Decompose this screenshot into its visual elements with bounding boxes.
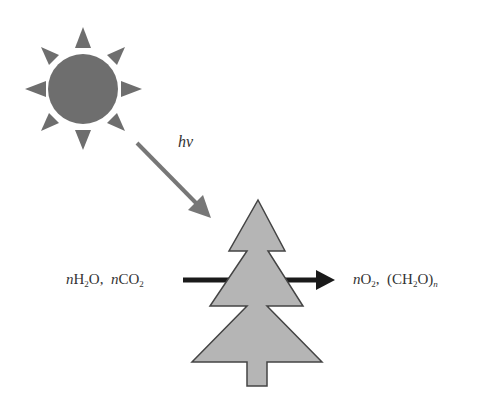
coefficient: n	[353, 271, 361, 287]
formula-part: O)	[417, 271, 433, 287]
formula-part: O	[361, 271, 372, 287]
formula-part: CO	[118, 271, 139, 287]
subscript: 2	[139, 279, 144, 289]
reactants-label: nH2O, nCO2	[66, 272, 144, 287]
diagram-canvas	[0, 0, 484, 413]
subscript: n	[433, 279, 438, 289]
formula-part: H	[74, 271, 85, 287]
formula-part: O,	[89, 271, 104, 287]
products-label: nO2, (CH2O)n	[353, 272, 438, 287]
tree-icon	[192, 200, 322, 386]
light-energy-label: hv	[178, 134, 193, 150]
coefficient: n	[66, 271, 74, 287]
sun-icon	[25, 27, 142, 150]
light-arrow	[137, 143, 211, 218]
formula-part: (CH	[387, 271, 413, 287]
formula-part: ,	[376, 271, 380, 287]
